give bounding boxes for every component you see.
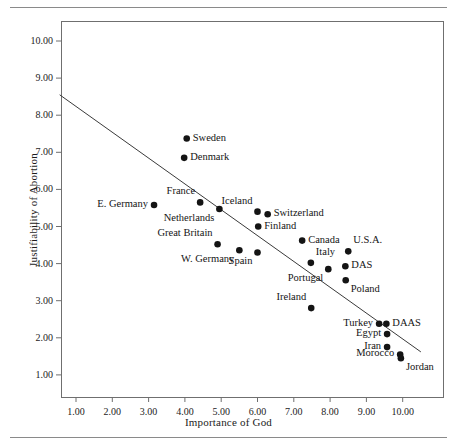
point-label: Portugal: [0, 273, 323, 284]
data-point[interactable]: [345, 248, 352, 255]
point-label: DAS: [351, 260, 372, 271]
point-label: Morocco: [0, 348, 394, 359]
data-point[interactable]: [264, 211, 271, 218]
data-point[interactable]: [299, 237, 306, 244]
data-point[interactable]: [383, 320, 390, 327]
data-point[interactable]: [376, 320, 383, 327]
data-point[interactable]: [254, 208, 261, 215]
data-point[interactable]: [308, 305, 315, 312]
y-tick-label: 1.00: [9, 369, 53, 380]
data-point[interactable]: [254, 249, 261, 256]
point-label: Poland: [351, 284, 380, 295]
point-label: Turkey: [0, 318, 373, 329]
data-point[interactable]: [216, 206, 223, 213]
point-label: Egypt: [0, 328, 381, 339]
point-label: Finland: [264, 221, 296, 232]
y-axis-title: Justifiability of Abortion: [27, 85, 39, 335]
point-label: Denmark: [190, 152, 229, 163]
data-point[interactable]: [384, 331, 391, 338]
point-label: Canada: [308, 235, 340, 246]
data-point[interactable]: [325, 266, 332, 273]
y-tick-label: 9.00: [9, 72, 53, 83]
point-label: Italy: [316, 247, 335, 258]
point-label: Switzerland: [274, 208, 324, 219]
point-label: Ireland: [0, 292, 306, 303]
figure-container: 1.002.003.004.005.006.007.008.009.0010.0…: [0, 0, 457, 446]
data-point[interactable]: [342, 263, 349, 270]
data-point[interactable]: [342, 277, 349, 284]
data-point[interactable]: [236, 247, 243, 254]
point-label: DAAS: [392, 318, 421, 329]
data-point[interactable]: [308, 260, 315, 267]
x-axis-title: Importance of God: [0, 416, 457, 428]
point-label: Jordan: [406, 362, 434, 373]
y-tick-label: 10.00: [9, 35, 53, 46]
data-point[interactable]: [255, 223, 262, 230]
data-point[interactable]: [183, 135, 190, 142]
data-point[interactable]: [214, 241, 221, 248]
point-label: Sweden: [193, 133, 226, 144]
data-point[interactable]: [181, 155, 188, 162]
point-label: U.S.A.: [353, 235, 382, 246]
data-point[interactable]: [398, 355, 405, 362]
